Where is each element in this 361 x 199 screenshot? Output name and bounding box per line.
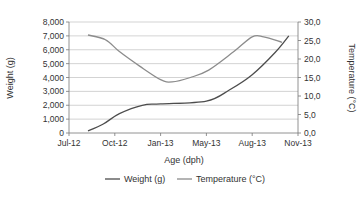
y-tick-label: 4,000 [43, 73, 65, 83]
y-tick-label: 8,000 [43, 17, 65, 27]
y-tick-label: 6,000 [43, 45, 65, 55]
legend: Weight (g) Temperature (°C) [105, 174, 265, 184]
y2-tick-label: 25,0 [304, 36, 321, 46]
temperature-line [88, 35, 282, 82]
y-tick-label: 0 [59, 128, 64, 138]
y-axis-tick-labels: 01,0002,0003,0004,0005,0006,0007,0008,00… [43, 17, 65, 138]
y-axis-title: Weight (g) [5, 57, 15, 98]
x-tick-label: Oct-12 [102, 138, 128, 148]
legend-weight-label: Weight (g) [124, 174, 165, 184]
y-tick-label: 5,000 [43, 59, 65, 69]
x-tick-label: Jan-13 [148, 138, 174, 148]
x-tick-label: May-13 [192, 138, 221, 148]
y2-tick-label: 30,0 [304, 17, 321, 27]
y-tick-label: 2,000 [43, 100, 65, 110]
legend-temperature-label: Temperature (°C) [196, 174, 265, 184]
y2-axis-tick-labels: 0,05,010,015,020,025,030,0 [304, 17, 321, 138]
y-tick-label: 3,000 [43, 86, 65, 96]
y2-tick-label: 20,0 [304, 54, 321, 64]
x-axis-title: Age (dph) [164, 155, 204, 165]
y-tick-label: 7,000 [43, 31, 65, 41]
y2-tick-label: 15,0 [304, 73, 321, 83]
y2-tick-label: 5,0 [304, 110, 316, 120]
y2-axis-title: Temperature (°C) [347, 43, 357, 112]
y2-tick-label: 0,0 [304, 128, 316, 138]
x-axis-tick-labels: Jul-12Oct-12Jan-13May-13Aug-13Nov-13 [57, 138, 312, 148]
x-tick-label: Nov-13 [284, 138, 312, 148]
dual-axis-line-chart: 01,0002,0003,0004,0005,0006,0007,0008,00… [0, 0, 361, 199]
y-tick-label: 1,000 [43, 114, 65, 124]
x-tick-label: Jul-12 [57, 138, 80, 148]
y2-tick-label: 10,0 [304, 91, 321, 101]
x-tick-label: Aug-13 [238, 138, 266, 148]
